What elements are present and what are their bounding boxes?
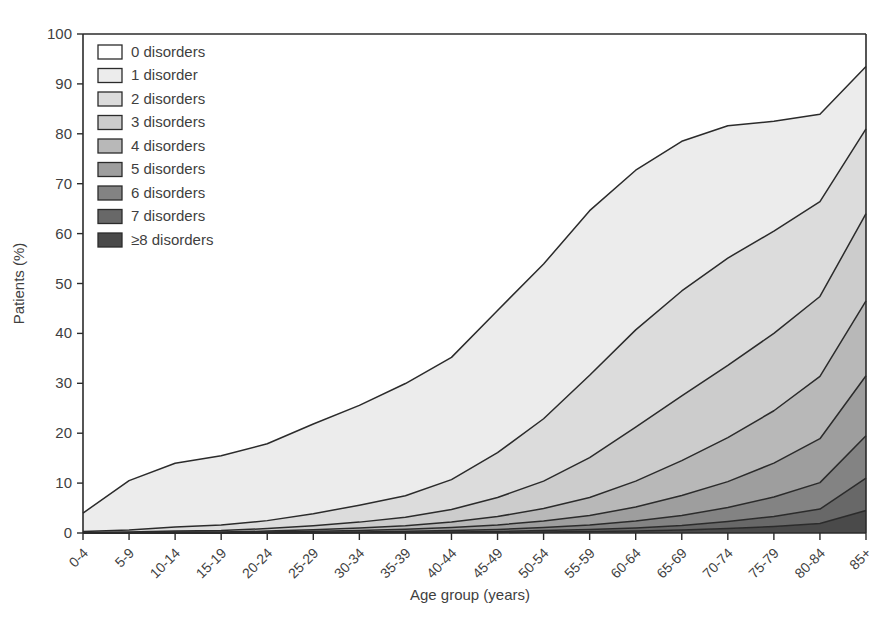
y-tick-label: 80 xyxy=(55,125,72,142)
legend-label-0: 0 disorders xyxy=(131,43,205,60)
y-tick-label: 50 xyxy=(55,275,72,292)
y-axis-title: Patients (%) xyxy=(10,243,27,325)
legend-swatch-2 xyxy=(98,92,122,106)
stacked-area-chart: 0102030405060708090100 0-45-910-1415-192… xyxy=(0,0,880,624)
x-tick-label: 50-54 xyxy=(515,545,552,582)
x-tick-label: 40-44 xyxy=(423,545,460,582)
legend-label-2: 2 disorders xyxy=(131,90,205,107)
y-tick-label: 60 xyxy=(55,225,72,242)
x-tick-label: 25-29 xyxy=(285,545,322,582)
x-tick-label: 80-84 xyxy=(791,545,828,582)
x-tick-label: 75-79 xyxy=(745,545,782,582)
x-tick-label: 65-69 xyxy=(653,545,690,582)
x-tick-label: 15-19 xyxy=(193,545,230,582)
x-tick-label: 85+ xyxy=(846,545,874,573)
y-tick-label: 70 xyxy=(55,175,72,192)
legend-label-5: 5 disorders xyxy=(131,160,205,177)
legend-label-8: ≥8 disorders xyxy=(131,231,213,248)
legend-swatch-1 xyxy=(98,69,122,83)
y-tick-label: 40 xyxy=(55,324,72,341)
x-axis-title: Age group (years) xyxy=(410,586,530,603)
legend-label-7: 7 disorders xyxy=(131,207,205,224)
legend-swatch-6 xyxy=(98,186,122,200)
x-tick-label: 30-34 xyxy=(331,545,368,582)
legend-label-4: 4 disorders xyxy=(131,137,205,154)
y-tick-label: 30 xyxy=(55,374,72,391)
plot-area-bands xyxy=(83,34,866,533)
legend-swatch-5 xyxy=(98,163,122,177)
legend-swatch-4 xyxy=(98,139,122,153)
x-tick-label: 0-4 xyxy=(65,545,91,571)
x-tick-label: 45-49 xyxy=(469,545,506,582)
y-tick-label: 90 xyxy=(55,75,72,92)
x-tick-label: 60-64 xyxy=(607,545,644,582)
legend-label-3: 3 disorders xyxy=(131,113,205,130)
x-tick-label: 5-9 xyxy=(112,545,138,571)
y-tick-label: 0 xyxy=(64,524,72,541)
legend-swatch-7 xyxy=(98,210,122,224)
x-tick-label: 20-24 xyxy=(239,545,276,582)
x-tick-label: 55-59 xyxy=(561,545,598,582)
legend-swatch-0 xyxy=(98,45,122,59)
y-tick-label: 100 xyxy=(47,25,72,42)
x-tick-label: 35-39 xyxy=(377,545,414,582)
y-tick-label: 20 xyxy=(55,424,72,441)
figure-container: 0102030405060708090100 0-45-910-1415-192… xyxy=(0,0,880,624)
x-tick-label: 10-14 xyxy=(147,545,184,582)
chart-legend: 0 disorders1 disorder2 disorders3 disord… xyxy=(98,43,213,248)
x-axis: 0-45-910-1415-1920-2425-2930-3435-3940-4… xyxy=(65,533,874,581)
legend-swatch-8 xyxy=(98,233,122,247)
legend-label-6: 6 disorders xyxy=(131,184,205,201)
y-tick-label: 10 xyxy=(55,474,72,491)
legend-swatch-3 xyxy=(98,116,122,130)
x-tick-label: 70-74 xyxy=(699,545,736,582)
legend-label-1: 1 disorder xyxy=(131,66,198,83)
